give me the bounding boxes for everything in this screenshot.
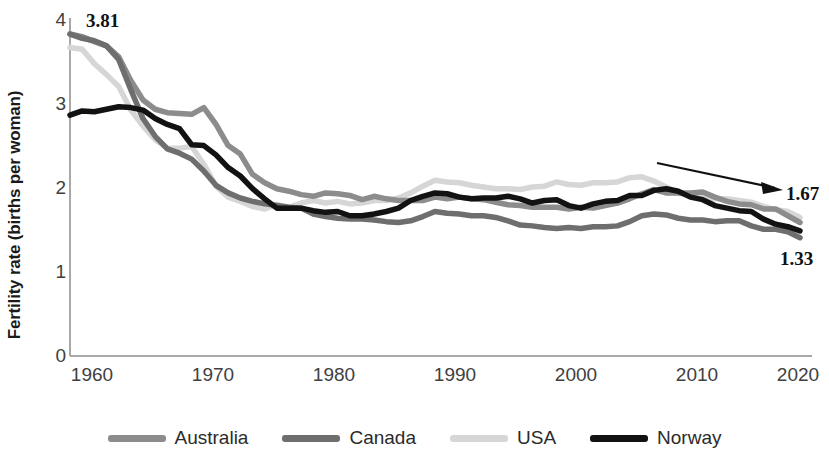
- legend-swatch-icon: [108, 435, 166, 442]
- series-line-canada: [70, 34, 800, 238]
- chart-legend: AustraliaCanadaUSANorway: [0, 420, 829, 456]
- plot-area: [0, 0, 829, 456]
- legend-item-usa[interactable]: USA: [450, 427, 556, 449]
- legend-swatch-icon: [590, 435, 648, 442]
- legend-label: Canada: [349, 427, 416, 449]
- legend-label: Norway: [657, 427, 721, 449]
- axis-lines: [70, 18, 812, 356]
- legend-swatch-icon: [282, 435, 340, 442]
- legend-item-australia[interactable]: Australia: [108, 427, 249, 449]
- legend-label: USA: [517, 427, 556, 449]
- legend-label: Australia: [175, 427, 249, 449]
- legend-item-norway[interactable]: Norway: [590, 427, 721, 449]
- annotation-canada-end-value: 1.33: [780, 248, 813, 270]
- legend-item-canada[interactable]: Canada: [282, 427, 416, 449]
- data-series-group: [70, 34, 800, 238]
- annotation-norway-end-value: 1.67: [786, 183, 819, 205]
- fertility-rate-line-chart: Fertility rate (births per woman) 4 3 2 …: [0, 0, 829, 456]
- annotation-start-value: 3.81: [86, 10, 119, 32]
- legend-swatch-icon: [450, 435, 508, 442]
